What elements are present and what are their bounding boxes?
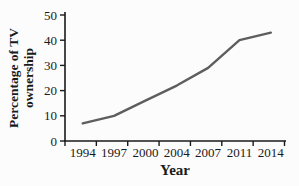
y-tick-label: 40 — [44, 33, 57, 48]
y-tick-label: 0 — [51, 134, 58, 149]
y-tick-label: 30 — [44, 58, 57, 73]
x-tick-label: 2000 — [132, 145, 158, 160]
x-tick-label: 2007 — [195, 145, 222, 160]
tv-ownership-line-chart: Percentage of TV ownership 0102030405019… — [0, 0, 299, 186]
x-tick-label: 2014 — [258, 145, 285, 160]
data-line — [83, 33, 271, 124]
y-tick-label: 50 — [44, 8, 57, 23]
y-tick-label: 10 — [44, 108, 57, 123]
x-axis-title: Year — [65, 162, 285, 179]
x-tick-label: 2011 — [227, 145, 253, 160]
x-tick-label: 1994 — [70, 145, 97, 160]
y-tick-label: 20 — [44, 83, 57, 98]
x-tick-label: 2004 — [164, 145, 191, 160]
x-tick-label: 1997 — [101, 145, 128, 160]
plot-area: 010203040501994199720002004200720112014 — [0, 0, 299, 186]
